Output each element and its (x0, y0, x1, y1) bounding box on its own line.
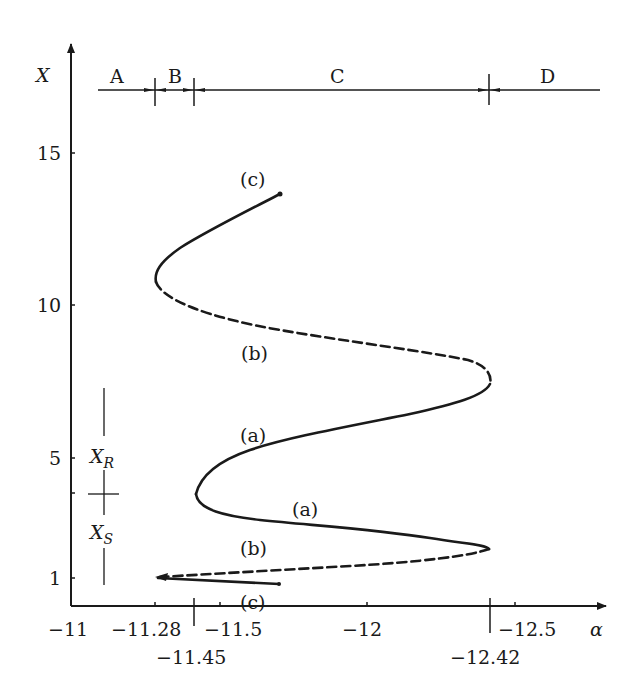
ytick-label-10: 10 (37, 294, 61, 316)
label-b-bottom: (b) (240, 537, 267, 559)
branch-c-lower (158, 578, 279, 584)
region-label-a: A (109, 65, 124, 87)
label-b-top: (b) (241, 342, 268, 364)
xtick-label-m1128: −11.28 (111, 618, 181, 640)
ytick-label-1: 1 (49, 567, 61, 589)
xtick-label-m1242: −12.42 (450, 646, 520, 668)
xtick-label-m11: −11 (48, 618, 88, 640)
ytick-label-15: 15 (37, 142, 61, 164)
x-axis-label: α (590, 618, 603, 640)
label-c-top: (c) (240, 168, 265, 190)
branch-b-upper (156, 282, 490, 384)
xtick-label-m115: −11.5 (204, 618, 262, 640)
y-axis-label: X (34, 64, 51, 86)
x-axis: −11 −11.28 −11.5 −12 −12.5 −11.45 −12.42… (48, 598, 606, 668)
branch-b-lower (160, 549, 489, 577)
region-label-b: B (168, 65, 182, 87)
region-label-c: C (330, 65, 345, 87)
region-label-d: D (540, 65, 555, 87)
region-bar: A B C D (98, 65, 600, 106)
xs-label: XS (88, 521, 113, 547)
label-c-bottom: (c) (240, 591, 265, 613)
y-axis: X 15 10 5 1 (34, 44, 75, 606)
xr-xs-bracket: XR XS (88, 388, 119, 585)
label-a-top: (a) (240, 424, 266, 446)
curve (155, 192, 490, 587)
bifurcation-chart: X 15 10 5 1 −11 −11.28 −11.5 −12 −12.5 −… (0, 0, 642, 699)
label-a-bottom: (a) (292, 498, 318, 520)
curve-labels: (c) (b) (a) (a) (b) (c) (240, 168, 318, 613)
ytick-label-5: 5 (49, 447, 61, 469)
xtick-label-m1145: −11.45 (156, 646, 226, 668)
branch-c-upper (156, 194, 280, 282)
xtick-label-m125: −12.5 (498, 618, 556, 640)
xtick-label-m12: −12 (342, 618, 382, 640)
xr-label: XR (88, 445, 115, 471)
